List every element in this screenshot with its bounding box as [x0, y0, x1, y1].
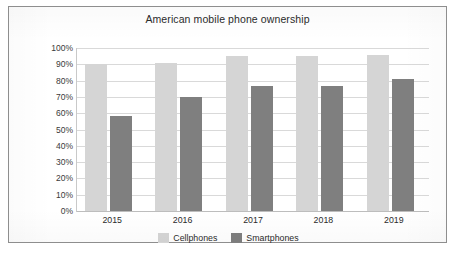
bar-group-2018 [288, 48, 358, 211]
bar-cellphones-2019[interactable] [367, 55, 389, 211]
bar-smartphones-2015[interactable] [110, 116, 132, 211]
legend-swatch-icon-cellphones [158, 233, 169, 243]
y-tick-label-80: 80% [33, 76, 73, 86]
chart-frame: American mobile phone ownership 100%90%8… [8, 6, 447, 243]
y-tick-label-40: 40% [33, 141, 73, 151]
y-tick-label-50: 50% [33, 125, 73, 135]
plot-area [77, 48, 429, 211]
bar-smartphones-2017[interactable] [251, 86, 273, 212]
y-tick-label-90: 90% [33, 59, 73, 69]
y-tick-label-60: 60% [33, 108, 73, 118]
y-axis-tick-labels: 100%90%80%70%60%50%40%30%20%10%0% [29, 48, 73, 211]
y-tick-label-0: 0% [33, 206, 73, 216]
x-tick-label-2017: 2017 [218, 215, 288, 225]
bar-smartphones-2016[interactable] [180, 97, 202, 211]
x-tick-label-2016: 2016 [148, 215, 218, 225]
gridline-0 [77, 211, 429, 212]
bar-cellphones-2017[interactable] [226, 56, 248, 211]
bar-group-2017 [218, 48, 288, 211]
y-tick-label-30: 30% [33, 157, 73, 167]
y-tick-label-10: 10% [33, 190, 73, 200]
y-tick-label-70: 70% [33, 92, 73, 102]
legend-swatch-icon-smartphones [231, 233, 242, 243]
chart-title: American mobile phone ownership [9, 13, 446, 25]
y-tick-label-100: 100% [33, 43, 73, 53]
bar-cellphones-2015[interactable] [85, 64, 107, 211]
bar-group-2019 [359, 48, 429, 211]
legend-label-cellphones: Cellphones [173, 233, 217, 243]
bar-smartphones-2018[interactable] [321, 86, 343, 212]
y-tick-label-20: 20% [33, 173, 73, 183]
x-tick-label-2015: 2015 [77, 215, 147, 225]
x-tick-label-2019: 2019 [359, 215, 429, 225]
legend-item-smartphones[interactable]: Smartphones [231, 233, 298, 243]
x-tick-label-2018: 2018 [288, 215, 358, 225]
bar-cellphones-2018[interactable] [296, 56, 318, 211]
chart-legend: CellphonesSmartphones [9, 233, 448, 243]
bar-group-2016 [147, 48, 217, 211]
bar-cellphones-2016[interactable] [155, 63, 177, 211]
legend-item-cellphones[interactable]: Cellphones [158, 233, 217, 243]
bar-smartphones-2019[interactable] [392, 79, 414, 211]
legend-label-smartphones: Smartphones [246, 233, 298, 243]
bar-group-2015 [77, 48, 147, 211]
